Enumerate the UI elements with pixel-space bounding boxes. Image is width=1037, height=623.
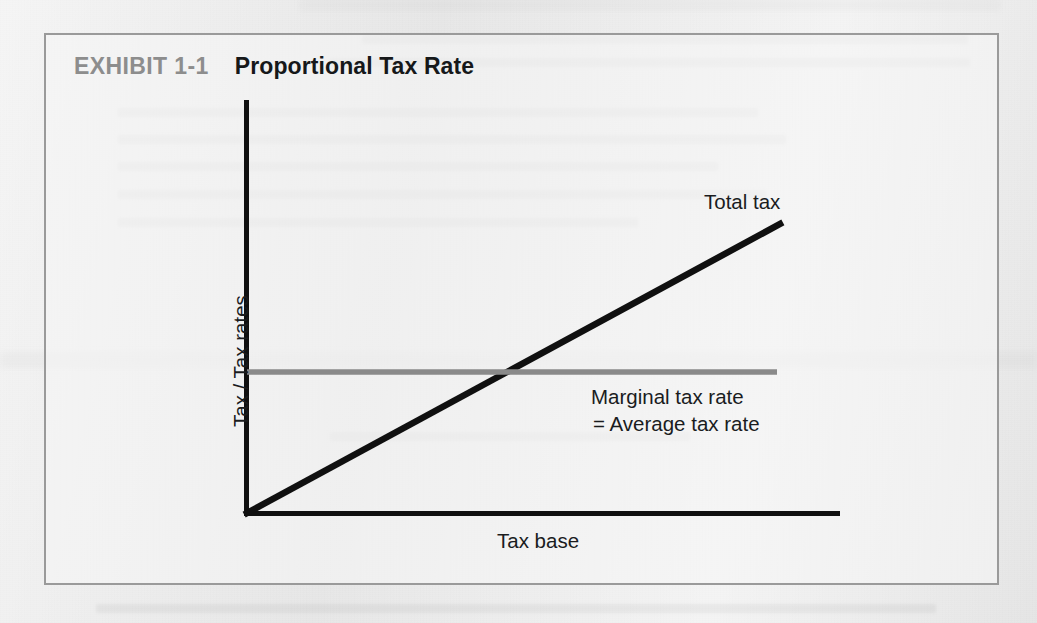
series-line-total-tax: [247, 224, 780, 513]
chart-plot-area: Total tax Marginal tax rate = Average ta…: [46, 35, 997, 583]
scan-bleed-band: [300, 0, 1000, 10]
scan-bleed-text: [96, 604, 936, 613]
series-label-average-rate-line2: = Average tax rate: [591, 410, 760, 437]
series-label-marginal-average-rate: Marginal tax rate = Average tax rate: [591, 383, 760, 438]
chart-series-layer: [46, 35, 1001, 587]
series-label-total-tax: Total tax: [704, 190, 780, 214]
x-axis-label: Tax base: [497, 529, 579, 553]
series-label-marginal-rate-line1: Marginal tax rate: [591, 385, 744, 408]
exhibit-panel: EXHIBIT 1-1 Proportional Tax Rate Total …: [44, 33, 999, 585]
y-axis-label: Tax / Tax rates: [229, 295, 253, 427]
